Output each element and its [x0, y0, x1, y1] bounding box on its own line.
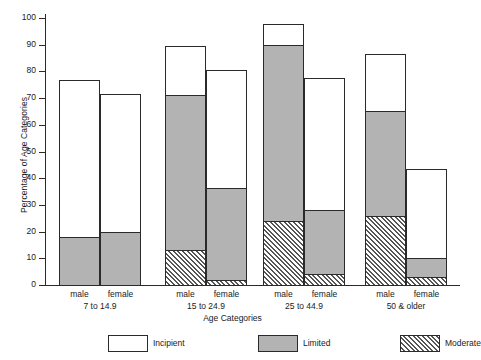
y-tick-label: 30	[27, 199, 36, 209]
legend-swatch-moderate	[400, 335, 440, 352]
bar-segment-limited[interactable]	[100, 232, 141, 287]
bar-50-older-male[interactable]	[365, 54, 406, 286]
bar-15-to-24-9-male[interactable]	[165, 46, 206, 286]
y-tick-label: 40	[27, 172, 36, 182]
y-tick: 50	[39, 152, 45, 153]
y-tick: 80	[39, 71, 45, 72]
y-tick-label: 10	[27, 252, 36, 262]
y-tick: 20	[39, 232, 45, 233]
bar-segment-limited[interactable]	[59, 237, 100, 286]
bar-7-to-14-9-female[interactable]	[100, 94, 141, 286]
legend-swatch-limited	[258, 335, 298, 352]
x-sub-label: female	[295, 289, 355, 299]
chart-legend: IncipientLimitedModerate	[0, 332, 465, 356]
x-group-label: 50 & older	[336, 301, 476, 311]
legend-swatch-incipient	[108, 335, 148, 352]
bar-7-to-14-9-male[interactable]	[59, 80, 100, 286]
y-tick-label: 50	[27, 146, 36, 156]
legend-item-incipient[interactable]: Incipient	[108, 332, 185, 354]
y-tick-label: 100	[22, 12, 36, 22]
bar-segment-moderate[interactable]	[304, 274, 345, 286]
bar-segment-moderate[interactable]	[263, 221, 304, 286]
legend-label: Incipient	[153, 338, 185, 348]
bar-segment-moderate[interactable]	[206, 280, 247, 287]
bar-segment-moderate[interactable]	[406, 277, 447, 286]
y-tick: 70	[39, 98, 45, 99]
y-tick: 10	[39, 258, 45, 259]
x-sub-label: female	[197, 289, 257, 299]
y-tick: 30	[39, 205, 45, 206]
plot-area: 0102030405060708090100 malefemale7 to 14…	[45, 14, 460, 286]
y-tick-label: 90	[27, 39, 36, 49]
y-tick: 100	[39, 18, 45, 19]
bar-15-to-24-9-female[interactable]	[206, 70, 247, 286]
legend-label: Limited	[303, 338, 330, 348]
bar-segment-moderate[interactable]	[165, 250, 206, 286]
y-axis-line	[45, 14, 46, 286]
y-tick-label: 0	[31, 279, 36, 289]
legend-label: Moderate	[445, 338, 481, 348]
y-tick: 0	[39, 285, 45, 286]
y-tick: 60	[39, 125, 45, 126]
legend-item-limited[interactable]: Limited	[258, 332, 330, 354]
bar-segment-limited[interactable]	[206, 188, 247, 287]
x-sub-label: female	[91, 289, 151, 299]
y-tick: 90	[39, 45, 45, 46]
y-tick: 40	[39, 178, 45, 179]
y-tick-label: 70	[27, 92, 36, 102]
x-sub-label: female	[397, 289, 457, 299]
legend-item-moderate[interactable]: Moderate	[400, 332, 481, 354]
bar-25-to-44-9-female[interactable]	[304, 78, 345, 286]
y-tick-label: 20	[27, 226, 36, 236]
bar-segment-moderate[interactable]	[365, 216, 406, 287]
x-axis-title: Age Categories	[0, 313, 465, 323]
bar-50-older-female[interactable]	[406, 169, 447, 286]
y-tick-label: 80	[27, 65, 36, 75]
y-tick-label: 60	[27, 119, 36, 129]
bar-25-to-44-9-male[interactable]	[263, 24, 304, 286]
